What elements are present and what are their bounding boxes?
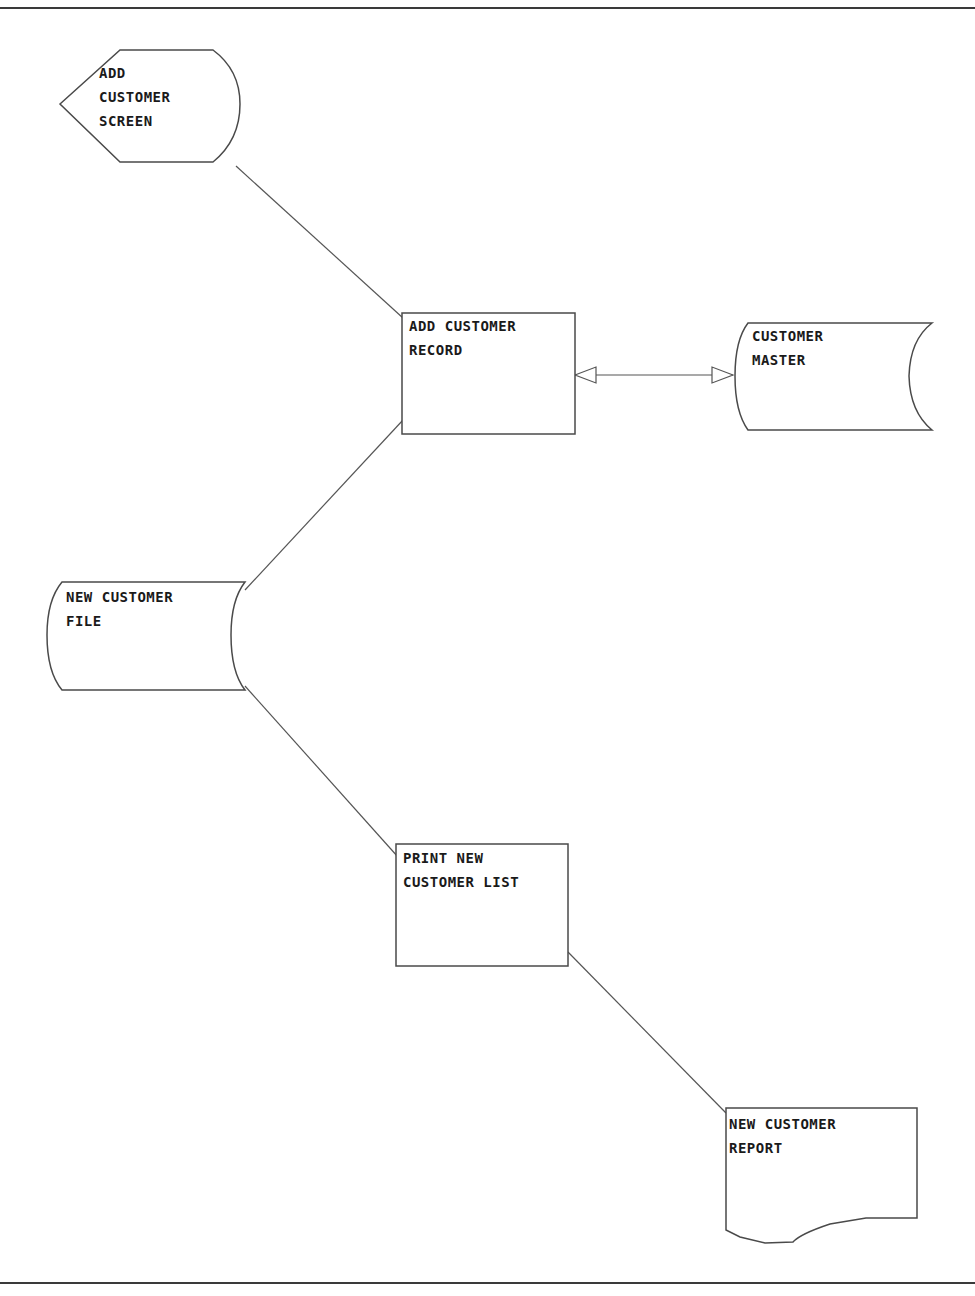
label-customer-master: CUSTOMER MASTER: [752, 324, 823, 372]
label-print-new-customer-list: PRINT NEW CUSTOMER LIST: [403, 846, 519, 894]
label-add-customer-screen: ADD CUSTOMER SCREEN: [99, 61, 170, 133]
connector-screen-to-record: [236, 166, 403, 318]
connector-record-to-file: [245, 420, 403, 590]
connector-print-to-report: [568, 952, 726, 1113]
label-add-customer-record: ADD CUSTOMER RECORD: [409, 314, 516, 362]
label-new-customer-report: NEW CUSTOMER REPORT: [729, 1112, 836, 1160]
connector-file-to-print: [245, 686, 398, 857]
label-new-customer-file: NEW CUSTOMER FILE: [66, 585, 173, 633]
arrowhead-right-icon: [712, 367, 733, 383]
flowchart-canvas: [0, 0, 975, 1296]
arrowhead-left-icon: [575, 367, 596, 383]
